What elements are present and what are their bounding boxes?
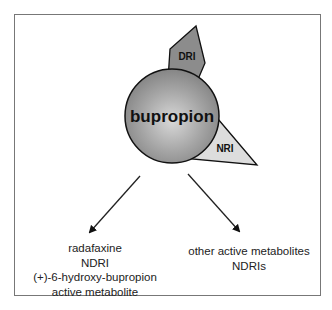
right-output-line: NDRIs (180, 259, 318, 274)
right-arrow (188, 174, 239, 231)
left-output-line: radafaxine (20, 241, 170, 256)
nri-label: NRI (216, 143, 233, 154)
dri-label: DRI (178, 51, 195, 62)
left-output-line: (+)-6-hydroxy-bupropion (20, 270, 170, 285)
left-output-label: radafaxine NDRI (+)-6-hydroxy-bupropion … (20, 241, 170, 299)
right-output-label: other active metabolites NDRIs (180, 244, 318, 273)
bupropion-sphere: bupropion (125, 69, 219, 163)
left-output-line: NDRI (20, 256, 170, 271)
left-arrow (90, 176, 140, 232)
left-output-line: active metabolite (20, 285, 170, 300)
bupropion-label: bupropion (130, 107, 214, 126)
right-output-line: other active metabolites (180, 244, 318, 259)
